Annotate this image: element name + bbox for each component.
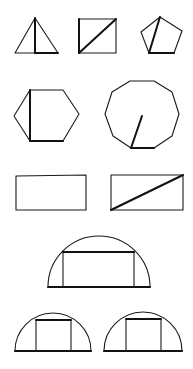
square-with-diagonal (79, 19, 116, 53)
triangle-outline (15, 18, 58, 53)
hexagon-with-diagonal (14, 90, 79, 141)
decagon-with-radius (105, 81, 179, 148)
pentagon-line-0 (149, 17, 160, 53)
semicircle-small-left-inscribed-rectangle (15, 313, 91, 351)
pentagon-with-diagonal (141, 17, 182, 53)
semicircle-large-inscribed-rectangle (48, 236, 150, 287)
rectangle (16, 175, 86, 210)
semicircle-small-right-arc (104, 312, 182, 351)
triangle-with-altitude (15, 18, 58, 53)
decagon-line-0 (131, 116, 142, 148)
semicircle-small-right-inscribed-rectangle (104, 312, 182, 351)
decagon-outline (105, 81, 179, 148)
square-line-0 (79, 19, 116, 53)
semicircle-small-left-arc (15, 313, 91, 351)
geometry-figure (0, 0, 193, 369)
pentagon-outline (141, 17, 182, 53)
hexagon-outline (14, 90, 79, 141)
rectangle-diagonal-line-0 (111, 175, 183, 210)
rectangle-outline (16, 175, 86, 210)
rectangle-with-diagonal (111, 175, 183, 210)
